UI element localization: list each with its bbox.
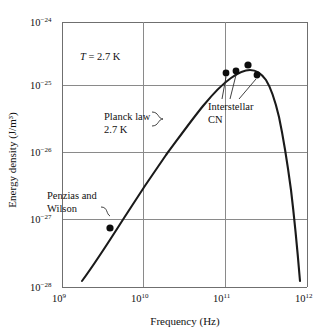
data-point-cn-3 bbox=[244, 61, 251, 68]
data-point-cn-2 bbox=[233, 68, 240, 75]
annotation-temperature: T = 2.7 K bbox=[80, 51, 121, 62]
annotation-interstellar-cn-line2: CN bbox=[208, 114, 223, 125]
y-axis-title: Energy density (J/m³) bbox=[6, 112, 19, 208]
chart-svg: 10−24 10−25 10−26 10−27 10−28 109 1010 1… bbox=[0, 0, 332, 336]
planck-blackbody-chart: 10−24 10−25 10−26 10−27 10−28 109 1010 1… bbox=[0, 0, 332, 336]
annotation-penzias-wilson-line1: Penzias and bbox=[47, 190, 98, 201]
annotation-temperature-value: = 2.7 K bbox=[86, 51, 121, 62]
annotation-interstellar-cn-line1: Interstellar bbox=[208, 101, 254, 112]
data-point-penzias-wilson bbox=[106, 224, 113, 231]
annotation-penzias-wilson-line2: Wilson bbox=[47, 203, 78, 214]
data-point-cn-1 bbox=[223, 70, 230, 77]
x-axis-title: Frequency (Hz) bbox=[150, 315, 220, 328]
data-point-cn-4 bbox=[254, 72, 261, 79]
annotation-planck-law-line2: 2.7 K bbox=[104, 124, 128, 135]
annotation-planck-law-line1: Planck law bbox=[104, 111, 151, 122]
